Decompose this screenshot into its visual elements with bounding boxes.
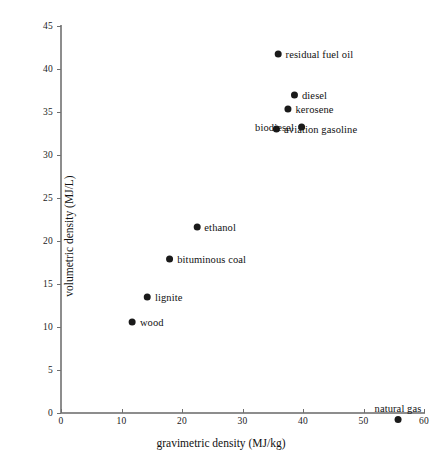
- y-tick-label: 10: [43, 322, 53, 332]
- data-point-label: biodiesel: [255, 122, 294, 133]
- y-tick: [57, 155, 61, 156]
- y-tick: [57, 26, 61, 27]
- y-tick: [57, 413, 61, 414]
- data-point-label: natural gas: [375, 403, 422, 414]
- y-tick-label: 15: [43, 279, 53, 289]
- data-point-marker: [129, 318, 136, 325]
- data-point: kerosene: [284, 104, 333, 115]
- data-point: biodiesel: [255, 122, 305, 133]
- x-tick: [122, 409, 123, 413]
- data-point-marker: [284, 106, 291, 113]
- data-point-label: ethanol: [204, 222, 236, 233]
- data-point-label: lignite: [155, 291, 183, 302]
- y-tick: [57, 198, 61, 199]
- data-point: residual fuel oil: [275, 48, 354, 59]
- plot-area: 0102030405060 051015202530354045 residua…: [0, 0, 442, 471]
- data-point: wood: [129, 316, 164, 327]
- x-tick: [303, 409, 304, 413]
- data-point-label: wood: [140, 316, 164, 327]
- y-tick-label: 20: [43, 236, 53, 246]
- y-axis-title: volumetric density (MJ/L): [63, 175, 75, 296]
- y-tick-label: 5: [48, 365, 53, 375]
- data-point-label: bituminous coal: [177, 254, 246, 265]
- data-point-label: kerosene: [295, 104, 333, 115]
- y-tick: [57, 327, 61, 328]
- y-tick-label: 0: [48, 408, 53, 418]
- data-point: bituminous coal: [166, 254, 246, 265]
- data-point-marker: [144, 293, 151, 300]
- data-point: diesel: [291, 89, 327, 100]
- x-tick-label: 0: [59, 416, 64, 426]
- y-tick: [57, 284, 61, 285]
- y-tick-label: 45: [43, 21, 53, 31]
- x-tick-label: 50: [359, 416, 369, 426]
- x-tick: [182, 409, 183, 413]
- data-point-marker: [298, 124, 305, 131]
- y-tick: [57, 241, 61, 242]
- y-axis-line: [60, 25, 62, 413]
- data-point-marker: [394, 416, 401, 423]
- data-point: natural gas: [375, 403, 422, 423]
- y-tick: [57, 370, 61, 371]
- x-tick-label: 10: [117, 416, 127, 426]
- x-tick: [424, 409, 425, 413]
- y-tick: [57, 69, 61, 70]
- x-tick: [61, 409, 62, 413]
- data-point-marker: [291, 91, 298, 98]
- data-point-label: residual fuel oil: [286, 48, 354, 59]
- data-point: lignite: [144, 291, 183, 302]
- y-tick-label: 40: [43, 64, 53, 74]
- data-point-marker: [275, 50, 282, 57]
- x-tick-label: 30: [238, 416, 248, 426]
- y-tick-label: 35: [43, 107, 53, 117]
- data-point: ethanol: [193, 222, 236, 233]
- fuel-energy-density-scatter-chart: 0102030405060 051015202530354045 residua…: [0, 0, 442, 471]
- data-point-label: diesel: [302, 89, 327, 100]
- x-axis-title: gravimetric density (MJ/kg): [156, 437, 285, 449]
- data-point-marker: [193, 224, 200, 231]
- y-tick-label: 25: [43, 193, 53, 203]
- y-tick: [57, 112, 61, 113]
- x-tick-label: 40: [298, 416, 308, 426]
- data-point-marker: [166, 256, 173, 263]
- x-tick-label: 20: [177, 416, 187, 426]
- y-tick-label: 30: [43, 150, 53, 160]
- x-tick: [243, 409, 244, 413]
- x-tick: [364, 409, 365, 413]
